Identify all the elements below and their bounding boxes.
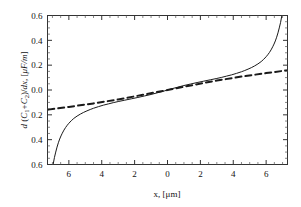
x-tick-label: 4 xyxy=(231,169,236,179)
x-tick-label: 2 xyxy=(198,169,203,179)
x-tick-label: 0 xyxy=(165,169,170,179)
y-tick-label: 0.4 xyxy=(31,36,43,46)
y-tick-label: 0.2 xyxy=(31,110,42,120)
y-tick-label: 0.2 xyxy=(31,60,42,70)
y-tick-label: 0.4 xyxy=(31,135,43,145)
x-axis-title: x, [μm] xyxy=(154,189,181,199)
figure-background xyxy=(0,0,301,207)
y-tick-label: 0.6 xyxy=(31,11,43,21)
y-tick-label: 0.6 xyxy=(31,160,43,170)
y-axis-title-group: d (C1+C2)/dx, [μF/m] xyxy=(19,52,30,129)
y-tick-label: 0.0 xyxy=(31,85,43,95)
x-tick-label: 6 xyxy=(67,169,72,179)
x-tick-label: 2 xyxy=(132,169,137,179)
x-tick-label: 4 xyxy=(99,169,104,179)
y-axis-title: d (C1+C2)/dx, [μF/m] xyxy=(19,52,30,129)
chart-canvas: 6420246 0.60.40.20.00.20.40.6 x, [μm] d … xyxy=(0,0,301,207)
figure-container: 6420246 0.60.40.20.00.20.40.6 x, [μm] d … xyxy=(0,0,301,207)
x-tick-label: 6 xyxy=(264,169,269,179)
